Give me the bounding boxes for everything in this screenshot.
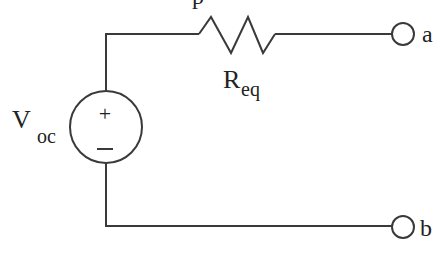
terminal-a-label: a <box>422 21 433 47</box>
source-label: V <box>12 105 31 134</box>
resistor-label-subscript: eq <box>241 78 260 101</box>
wire-top-left <box>106 34 199 91</box>
resistor-symbol <box>199 17 275 53</box>
resistor-label: R <box>223 65 241 94</box>
source-label-subscript: oc <box>37 125 56 147</box>
title-fragment: p <box>192 0 204 9</box>
source-label-main: V <box>12 105 31 134</box>
terminal-a <box>392 23 414 45</box>
thevenin-circuit-diagram: p a + V oc R eq b <box>0 0 447 254</box>
plus-sign: + <box>99 101 111 126</box>
terminal-b-label: b <box>420 215 432 241</box>
terminal-b <box>392 216 414 238</box>
wire-bottom <box>106 163 392 226</box>
